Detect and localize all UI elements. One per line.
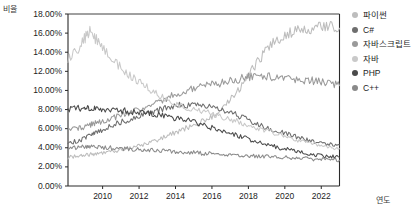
series-line-6 — [68, 145, 340, 162]
legend-label: 자바 — [363, 55, 379, 64]
series-line-3 — [68, 73, 340, 131]
legend-marker-icon — [352, 41, 358, 47]
legend-label: PHP — [363, 69, 380, 78]
legend-item-2[interactable]: C# — [352, 23, 420, 38]
legend-label: C# — [363, 26, 374, 35]
legend-label: 파이썬 — [363, 11, 387, 20]
legend-item-1[interactable]: 파이썬 — [352, 8, 420, 23]
legend-marker-icon — [352, 27, 358, 33]
axis-frame — [65, 14, 340, 189]
legend-item-4[interactable]: 자바 — [352, 52, 420, 67]
legend-marker-icon — [352, 56, 358, 62]
legend-marker-icon — [352, 85, 358, 91]
series-line-1 — [68, 22, 340, 159]
legend-marker-icon — [352, 12, 358, 18]
legend-item-6[interactable]: C++ — [352, 81, 420, 96]
legend-marker-icon — [352, 70, 358, 76]
legend-label: C++ — [363, 84, 379, 93]
line-chart: 비율 연도 0.00%2.00%4.00%6.00%8.00%10.00%12.… — [0, 0, 420, 218]
legend-item-3[interactable]: 자바스크립트 — [352, 37, 420, 52]
legend-label: 자바스크립트 — [363, 40, 411, 49]
chart-legend: 파이썬C#자바스크립트자바PHPC++ — [352, 8, 420, 95]
series-line-4 — [68, 26, 340, 149]
legend-item-5[interactable]: PHP — [352, 66, 420, 81]
